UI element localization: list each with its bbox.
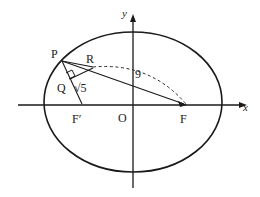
geometry-figure: P Q R F′ F O √5 9 x y <box>0 0 260 197</box>
label-origin: O <box>118 111 127 125</box>
label-length-nine: 9 <box>135 67 141 81</box>
label-point-f: F <box>180 112 187 126</box>
figure-canvas: P Q R F′ F O √5 9 x y <box>0 0 260 197</box>
label-point-q: Q <box>57 81 66 95</box>
label-axis-x: x <box>242 101 248 113</box>
label-point-p: P <box>51 47 58 61</box>
label-point-r: R <box>86 52 94 66</box>
label-point-f-prime: F′ <box>72 112 82 126</box>
y-axis-arrowhead <box>130 14 136 22</box>
label-axis-y: y <box>121 7 127 19</box>
label-length-sqrt5: √5 <box>74 81 87 95</box>
segment-pf-arrowhead <box>178 101 187 107</box>
